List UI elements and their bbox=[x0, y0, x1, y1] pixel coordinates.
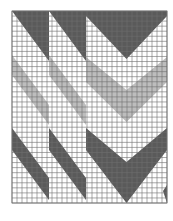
bottom-dark-diagonal-1 bbox=[12, 128, 49, 200]
top-dark-chevron bbox=[86, 11, 167, 59]
bottom-dark-diagonal-2 bbox=[49, 128, 86, 200]
middle-light-diagonal-2 bbox=[49, 55, 86, 125]
pattern-chart bbox=[0, 0, 173, 221]
middle-light-diagonal-1 bbox=[12, 55, 49, 125]
bottom-dark-chevron bbox=[86, 128, 167, 203]
